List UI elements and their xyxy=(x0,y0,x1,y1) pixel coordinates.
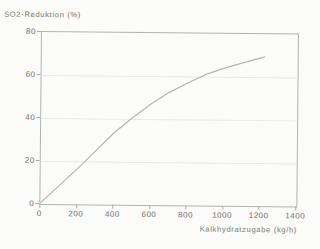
y-tick-label: 0 xyxy=(14,198,34,207)
x-tick-label: 200 xyxy=(62,209,90,218)
x-tick-mark xyxy=(76,204,77,208)
x-axis-label: Kalkhydratzugabe (kg/h) xyxy=(0,223,297,235)
chart-figure: SO2-Reduktion (%) 0204060800200400600800… xyxy=(0,0,320,249)
y-tick-label: 60 xyxy=(16,69,36,78)
x-tick-mark xyxy=(112,205,113,209)
curve-canvas xyxy=(40,32,298,206)
y-tick-mark xyxy=(37,31,41,32)
x-tick-mark xyxy=(186,205,187,209)
so2-reduction-curve xyxy=(40,55,265,205)
y-tick-label: 40 xyxy=(15,112,35,121)
x-tick-label: 600 xyxy=(135,210,163,219)
x-tick-mark xyxy=(259,206,260,210)
x-tick-label: 1200 xyxy=(245,211,273,220)
plot-area xyxy=(39,31,299,207)
x-tick-label: 800 xyxy=(171,210,199,219)
x-tick-mark xyxy=(222,206,223,210)
x-tick-label: 1400 xyxy=(281,211,309,220)
x-tick-label: 400 xyxy=(98,210,126,219)
x-tick-mark xyxy=(39,204,40,208)
x-tick-label: 1000 xyxy=(208,211,236,220)
x-tick-mark xyxy=(295,206,296,210)
x-tick-label: 0 xyxy=(25,209,53,218)
y-tick-label: 20 xyxy=(15,155,35,164)
chart-title: SO2-Reduktion (%) xyxy=(4,10,81,20)
y-tick-label: 80 xyxy=(16,26,36,35)
axis-ticks: 0204060800200400600800100012001400 xyxy=(0,0,320,3)
x-tick-mark xyxy=(149,205,150,209)
y-tick-mark xyxy=(36,117,40,118)
y-tick-mark xyxy=(37,74,41,75)
y-tick-mark xyxy=(36,160,40,161)
